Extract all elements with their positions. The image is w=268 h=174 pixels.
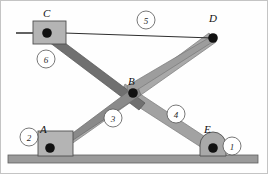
point-label-E: E (203, 123, 211, 135)
callout-label-1: 1 (230, 142, 235, 152)
callout-link-5: 5 (137, 11, 155, 29)
joint-B (128, 88, 138, 98)
callout-link-1: 1 (223, 137, 241, 155)
callout-label-6: 6 (44, 55, 49, 65)
joint-E (208, 143, 218, 153)
point-label-B: B (128, 75, 135, 87)
figure-root: A B C D E 1 2 3 4 5 6 (0, 0, 268, 174)
point-label-A: A (39, 123, 47, 135)
callout-label-4: 4 (174, 110, 179, 120)
point-label-D: D (208, 12, 217, 24)
joint-C (42, 28, 52, 38)
callout-link-3: 3 (104, 109, 122, 127)
callout-link-2: 2 (20, 128, 38, 146)
callout-link-6: 6 (37, 50, 55, 68)
callout-label-5: 5 (144, 16, 149, 26)
joint-A (45, 143, 55, 153)
point-label-C: C (43, 7, 51, 19)
mechanism-diagram: A B C D E 1 2 3 4 5 6 (0, 0, 268, 174)
callout-link-4: 4 (167, 105, 185, 123)
callout-label-3: 3 (110, 114, 116, 124)
callout-label-2: 2 (27, 133, 32, 143)
joint-D (208, 33, 218, 43)
